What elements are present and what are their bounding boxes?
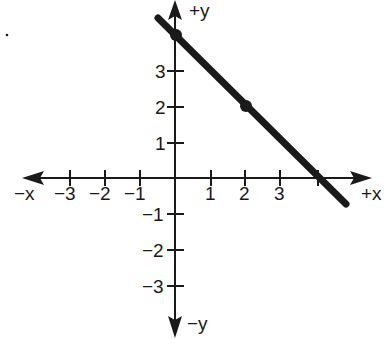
- y-tick-label: −3: [142, 276, 164, 297]
- coordinate-plane: +y −y +x −x −3 −2 −1 1 2 3 3 2 1 −1 −2 −…: [0, 0, 390, 339]
- x-negative-label: −x: [14, 183, 35, 204]
- plotted-line: [158, 18, 346, 204]
- y-tick-label: 1: [155, 133, 166, 154]
- y-positive-label: +y: [189, 0, 210, 21]
- x-tick-label: 3: [274, 183, 285, 204]
- stray-dot: [6, 34, 9, 37]
- y-negative-label: −y: [187, 313, 208, 334]
- x-tick-label: 1: [205, 183, 216, 204]
- x-positive-label: +x: [361, 183, 382, 204]
- x-tick-label: −3: [54, 183, 76, 204]
- x-tick-label: −1: [124, 183, 146, 204]
- x-tick-label: 2: [239, 183, 250, 204]
- x-tick-label: −2: [89, 183, 111, 204]
- point-0-4: [170, 29, 182, 41]
- y-tick-label: 3: [155, 61, 166, 82]
- y-tick-label: −1: [142, 204, 164, 225]
- y-tick-label: −2: [142, 240, 164, 261]
- point-2-2: [240, 100, 252, 112]
- y-tick-label: 2: [155, 97, 166, 118]
